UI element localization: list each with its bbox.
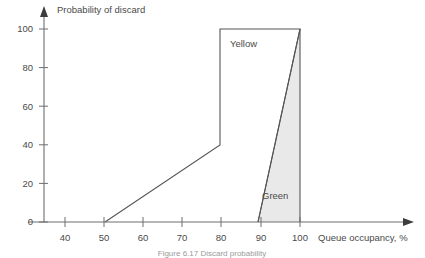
x-axis-arrow-icon (403, 218, 414, 226)
y-tick-label-60: 60 (22, 101, 33, 112)
y-axis-arrow-icon (40, 6, 48, 17)
x-tick-label-40: 40 (60, 232, 71, 243)
x-tick-label-50: 50 (99, 232, 110, 243)
y-axis-title: Probability of discard (57, 4, 145, 15)
x-tick-label-80: 80 (216, 232, 227, 243)
y-tick-label-20: 20 (22, 178, 33, 189)
x-axis-title: Queue occupancy, % (318, 232, 408, 243)
figure-caption: Figure 6.17 Discard probability (158, 249, 267, 258)
y-tick-label-40: 40 (22, 139, 33, 150)
chart-container: 0 20 40 60 80 100 40 50 60 70 80 90 100 … (0, 0, 425, 258)
y-tick-label-80: 80 (22, 62, 33, 73)
y-tick-label-100: 100 (17, 23, 33, 34)
discard-probability-chart: 0 20 40 60 80 100 40 50 60 70 80 90 100 … (0, 0, 425, 258)
x-tick-label-90: 90 (256, 232, 267, 243)
green-region-label: Green (262, 190, 288, 201)
yellow-region-label: Yellow (230, 38, 257, 49)
x-tick-label-100: 100 (292, 232, 308, 243)
x-tick-label-60: 60 (138, 232, 149, 243)
x-tick-label-70: 70 (177, 232, 188, 243)
y-tick-label-0: 0 (28, 216, 33, 227)
